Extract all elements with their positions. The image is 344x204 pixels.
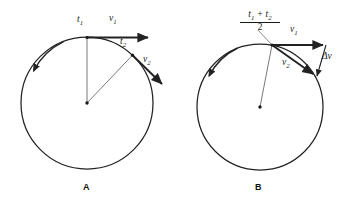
rotation-direction-arrow-b bbox=[209, 48, 238, 76]
rotation-direction-arrow-a bbox=[34, 42, 64, 71]
label-v2-b: v2 bbox=[282, 58, 290, 70]
point-t1 bbox=[85, 36, 88, 39]
panel-letter-a: A bbox=[83, 182, 90, 192]
panel-b: t1 + t2 2 v1 v2 Δv B bbox=[172, 0, 344, 204]
point-midpoint-b bbox=[270, 43, 273, 46]
label-midpoint-time-fraction: t1 + t2 2 bbox=[240, 10, 280, 33]
center-point-b bbox=[258, 105, 261, 108]
label-v1-a: v1 bbox=[109, 14, 117, 26]
figure-container: t1 v1 t2 v2 A bbox=[0, 0, 344, 204]
label-t2: t2 bbox=[120, 37, 126, 49]
label-v1-b: v1 bbox=[290, 25, 298, 37]
radius-to-t2 bbox=[87, 55, 133, 103]
label-v2-a: v2 bbox=[143, 55, 151, 67]
panel-a-graphics bbox=[0, 0, 172, 204]
fraction-denominator: 2 bbox=[240, 23, 280, 33]
label-t1: t1 bbox=[77, 15, 83, 27]
center-point-a bbox=[85, 101, 88, 104]
vector-v2-b bbox=[272, 45, 313, 74]
fraction-numerator: t1 + t2 bbox=[240, 10, 280, 23]
label-delta-v: Δv bbox=[322, 52, 332, 62]
panel-a: t1 v1 t2 v2 A bbox=[0, 0, 172, 204]
point-t2 bbox=[131, 54, 134, 57]
radius-to-midpoint bbox=[260, 45, 272, 107]
panel-letter-b: B bbox=[255, 182, 262, 192]
